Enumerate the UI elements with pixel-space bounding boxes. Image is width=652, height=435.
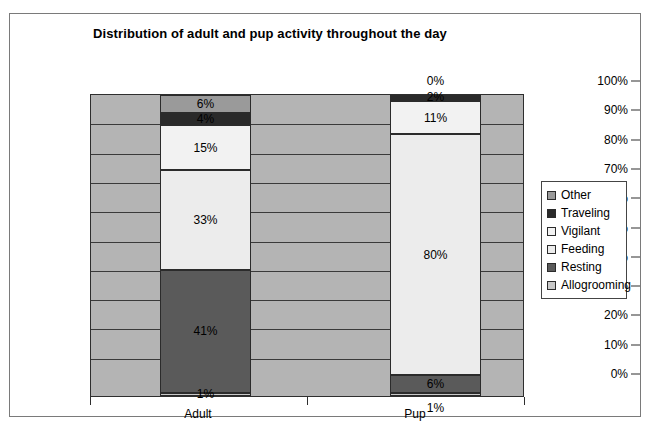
legend-swatch-feeding-icon	[547, 245, 556, 254]
segment-label: 41%	[193, 325, 217, 337]
y-tick-label: 100%	[597, 74, 628, 88]
segment-label-adult-allogrooming: 1%	[197, 387, 214, 401]
bar-pup[interactable]: 6% 80% 11% 2% 0% 1%	[390, 95, 481, 396]
segment-adult-vigilant[interactable]: 15%	[160, 125, 251, 170]
segment-adult-resting[interactable]: 41%	[160, 270, 251, 393]
legend-swatch-other-icon	[547, 191, 556, 200]
legend-label: Feeding	[561, 243, 604, 255]
segment-label: 11%	[424, 112, 447, 124]
legend-item-traveling[interactable]: Traveling	[547, 204, 622, 222]
segment-label: 6%	[427, 378, 444, 390]
legend-label: Traveling	[561, 207, 610, 219]
legend-label: Vigilant	[561, 225, 600, 237]
segment-pup-feeding[interactable]: 80%	[390, 134, 481, 375]
legend-item-other[interactable]: Other	[547, 186, 622, 204]
legend: Other Traveling Vigilant Feeding Resting…	[541, 181, 627, 299]
legend-swatch-traveling-icon	[547, 209, 556, 218]
segment-pup-allogrooming[interactable]	[390, 393, 481, 396]
legend-swatch-allogrooming-icon	[547, 281, 556, 290]
chart-title: Distribution of adult and pup activity t…	[10, 26, 530, 41]
x-category-label: Adult	[184, 407, 211, 421]
legend-label: Allogrooming	[561, 279, 631, 291]
legend-item-allogrooming[interactable]: Allogrooming	[547, 276, 622, 294]
segment-label: 4%	[197, 113, 214, 125]
segment-label: 6%	[197, 98, 214, 110]
segment-label: 80%	[423, 249, 447, 261]
segment-pup-resting[interactable]: 6%	[390, 375, 481, 393]
segment-label-pup-allogrooming: 1%	[427, 401, 444, 415]
segment-label: 15%	[193, 142, 217, 154]
legend-item-vigilant[interactable]: Vigilant	[547, 222, 622, 240]
segment-adult-other[interactable]: 6%	[160, 95, 251, 113]
segment-label: 33%	[193, 214, 217, 226]
legend-item-resting[interactable]: Resting	[547, 258, 622, 276]
bar-adult[interactable]: 41% 33% 15% 4% 6% 1%	[160, 95, 251, 396]
segment-adult-traveling[interactable]: 4%	[160, 113, 251, 125]
legend-swatch-vigilant-icon	[547, 227, 556, 236]
y-tick-label: 20%	[604, 308, 628, 322]
y-tick-label: 90%	[604, 103, 628, 117]
y-tick-label: 0%	[611, 367, 628, 381]
plot-area: 41% 33% 15% 4% 6% 1% 6% 8	[90, 94, 524, 397]
segment-label: 2%	[427, 91, 444, 103]
legend-label: Resting	[561, 261, 602, 273]
segment-pup-traveling[interactable]: 2%	[390, 95, 481, 101]
segment-label-pup-other: 0%	[427, 74, 444, 88]
y-tick-label: 70%	[604, 162, 628, 176]
legend-label: Other	[561, 189, 591, 201]
chart-frame: Distribution of adult and pup activity t…	[9, 13, 641, 417]
x-category-label: Pup	[404, 407, 425, 421]
legend-item-feeding[interactable]: Feeding	[547, 240, 622, 258]
y-tick-label: 80%	[604, 133, 628, 147]
y-tick-label: 10%	[604, 338, 628, 352]
legend-swatch-resting-icon	[547, 263, 556, 272]
segment-pup-vigilant[interactable]: 11%	[390, 101, 481, 134]
segment-adult-feeding[interactable]: 33%	[160, 170, 251, 269]
